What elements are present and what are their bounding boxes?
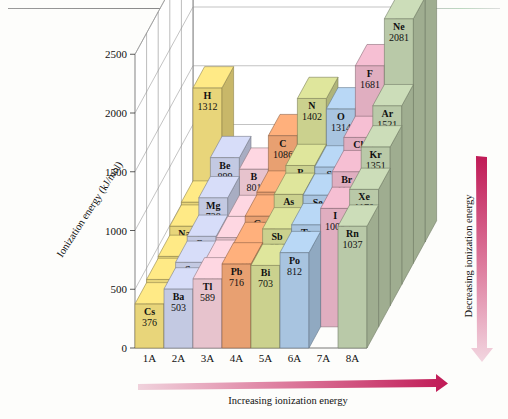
element-ionization-value: 716 xyxy=(229,277,244,288)
group-label: 4A xyxy=(230,352,244,364)
element-symbol: Ba xyxy=(173,291,185,302)
element-ionization-value: 1312 xyxy=(198,101,218,112)
element-symbol: N xyxy=(308,100,316,111)
element-symbol: Xe xyxy=(358,191,370,202)
figure-root: Trends in First Ionization Energy H1312H… xyxy=(0,0,508,419)
element-symbol: Sb xyxy=(272,231,284,242)
element-symbol: H xyxy=(204,90,212,101)
element-ionization-value: 1037 xyxy=(343,239,363,250)
element-ionization-value: 812 xyxy=(287,266,302,277)
element-symbol: Bi xyxy=(261,267,271,278)
group-label: 1A xyxy=(143,352,157,364)
group-label: 8A xyxy=(346,352,360,364)
element-ionization-value: 1402 xyxy=(302,111,322,122)
element-bar: Rn1037 xyxy=(338,205,379,348)
group-label: 6A xyxy=(288,352,302,364)
group-label: 5A xyxy=(259,352,273,364)
group-label: 7A xyxy=(317,352,331,364)
element-bar: Po812 xyxy=(280,231,321,348)
element-symbol: Mg xyxy=(206,200,220,211)
element-symbol: Kr xyxy=(370,149,383,160)
element-symbol: O xyxy=(337,111,345,122)
element-symbol: Be xyxy=(219,160,231,171)
element-symbol: B xyxy=(251,171,258,182)
element-symbol: I xyxy=(333,210,337,221)
y-axis-tick: 2500 xyxy=(105,48,128,60)
y-axis-title: Ionization energy (kJ/mol) xyxy=(54,159,125,260)
element-symbol: Pb xyxy=(231,266,243,277)
element-symbol: C xyxy=(279,138,286,149)
element-symbol: Ar xyxy=(381,108,393,119)
y-axis-tick: 1000 xyxy=(105,225,128,237)
element-symbol: As xyxy=(283,196,294,207)
element-symbol: Tl xyxy=(203,281,213,292)
element-symbol: Br xyxy=(341,174,353,185)
group-label: 2A xyxy=(172,352,186,364)
element-ionization-value: 589 xyxy=(200,292,215,303)
element-symbol: Cs xyxy=(144,306,155,317)
element-symbol: Ne xyxy=(393,21,405,32)
element-symbol: Po xyxy=(289,255,300,266)
ionization-energy-3d-chart: H1312He2372Li520Be899B801C1086N1402O1314… xyxy=(0,0,508,419)
element-ionization-value: 703 xyxy=(258,278,273,289)
group-label: 3A xyxy=(201,352,215,364)
element-ionization-value: 2081 xyxy=(389,32,409,43)
element-symbol: F xyxy=(367,68,373,79)
y-axis-tick: 500 xyxy=(111,283,128,295)
y-axis-tick: 0 xyxy=(122,342,128,354)
element-ionization-value: 1681 xyxy=(360,79,380,90)
element-symbol: Rn xyxy=(346,228,359,239)
element-ionization-value: 376 xyxy=(142,317,157,328)
element-ionization-value: 503 xyxy=(171,302,186,313)
y-axis-tick: 2000 xyxy=(105,107,128,119)
